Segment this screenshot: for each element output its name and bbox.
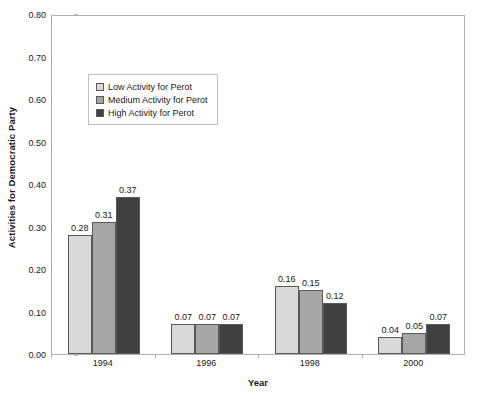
bar-group: 0.070.070.07 (171, 16, 243, 354)
bar-item[interactable]: 0.04 (378, 16, 402, 354)
legend-item[interactable]: High Activity for Perot (96, 106, 208, 119)
bar-item[interactable]: 0.07 (219, 16, 243, 354)
y-tick-label: 0.80 (28, 10, 46, 20)
bar-group: 0.160.150.12 (275, 16, 347, 354)
legend-label: Medium Activity for Perot (108, 95, 208, 105)
legend-swatch-icon (96, 96, 104, 104)
bar-item[interactable]: 0.15 (299, 16, 323, 354)
bar-item[interactable]: 0.07 (171, 16, 195, 354)
legend-swatch-icon (96, 109, 104, 117)
y-axis-tick-labels: 0.800.700.600.500.400.300.200.100.00 (24, 15, 50, 355)
y-tick-label: 0.70 (28, 53, 46, 63)
bar[interactable] (92, 222, 116, 354)
y-axis-title: Activities for Democratic Party (0, 0, 24, 355)
bar[interactable] (171, 324, 195, 354)
bar[interactable] (378, 337, 402, 354)
bar-value-label: 0.07 (429, 312, 447, 322)
y-tick-label: 0.20 (28, 265, 46, 275)
y-tick-label: 0.60 (28, 95, 46, 105)
bar-chart: Activities for Democratic Party 0.800.70… (0, 0, 488, 399)
chart-legend: Low Activity for PerotMedium Activity fo… (88, 74, 218, 125)
bar[interactable] (426, 324, 450, 354)
bar[interactable] (116, 197, 140, 354)
bar-value-label: 0.31 (95, 210, 113, 220)
x-tick-label: 2000 (403, 358, 423, 368)
bar-item[interactable]: 0.28 (68, 16, 92, 354)
y-tick-label: 0.50 (28, 138, 46, 148)
bar-item[interactable]: 0.16 (275, 16, 299, 354)
bar[interactable] (299, 290, 323, 354)
bar-value-label: 0.16 (278, 274, 296, 284)
bar-value-label: 0.07 (198, 312, 216, 322)
bar-value-label: 0.07 (174, 312, 192, 322)
bar-item[interactable]: 0.37 (116, 16, 140, 354)
x-tick-mark (362, 354, 363, 358)
bar-group: 0.280.310.37 (68, 16, 140, 354)
x-axis-tick-labels: 1994199619982000 (51, 358, 465, 374)
y-tick-label: 0.40 (28, 180, 46, 190)
x-tick-mark (258, 354, 259, 358)
x-axis-title: Year (51, 377, 465, 388)
y-tick-label: 0.30 (28, 223, 46, 233)
bar-value-label: 0.15 (302, 278, 320, 288)
y-tick-label: 0.10 (28, 308, 46, 318)
legend-swatch-icon (96, 83, 104, 91)
bar[interactable] (402, 333, 426, 354)
bar-group: 0.040.050.07 (378, 16, 450, 354)
bar-item[interactable]: 0.07 (426, 16, 450, 354)
y-tick-label: 0.00 (28, 350, 46, 360)
bar-value-label: 0.07 (222, 312, 240, 322)
bar[interactable] (323, 303, 347, 354)
plot-area: 0.280.310.370.070.070.070.160.150.120.04… (51, 15, 465, 355)
x-tick-label: 1994 (93, 358, 113, 368)
legend-label: Low Activity for Perot (108, 82, 192, 92)
plot-inner: 0.280.310.370.070.070.070.160.150.120.04… (52, 16, 464, 354)
bar[interactable] (219, 324, 243, 354)
bar-value-label: 0.04 (381, 325, 399, 335)
x-tick-mark (51, 354, 52, 358)
legend-item[interactable]: Low Activity for Perot (96, 80, 208, 93)
x-tick-label: 1998 (300, 358, 320, 368)
bar-value-label: 0.28 (71, 223, 89, 233)
bar-item[interactable]: 0.31 (92, 16, 116, 354)
legend-label: High Activity for Perot (108, 108, 194, 118)
y-axis-title-text: Activities for Democratic Party (7, 107, 18, 248)
bar-item[interactable]: 0.05 (402, 16, 426, 354)
bar-value-label: 0.12 (326, 291, 344, 301)
bar-value-label: 0.05 (405, 321, 423, 331)
x-tick-label: 1996 (196, 358, 216, 368)
bar[interactable] (68, 235, 92, 354)
bar-item[interactable]: 0.07 (195, 16, 219, 354)
bar-item[interactable]: 0.12 (323, 16, 347, 354)
x-tick-mark (155, 354, 156, 358)
bar-value-label: 0.37 (119, 185, 137, 195)
legend-item[interactable]: Medium Activity for Perot (96, 93, 208, 106)
bar[interactable] (275, 286, 299, 354)
bar[interactable] (195, 324, 219, 354)
